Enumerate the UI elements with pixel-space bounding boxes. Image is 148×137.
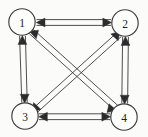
node-2[interactable]: 2 bbox=[112, 10, 138, 36]
node-1-label: 1 bbox=[19, 17, 25, 29]
edge-3-2 bbox=[32, 32, 121, 114]
node-4-label: 4 bbox=[121, 112, 127, 124]
edge-1-3 bbox=[18, 35, 29, 103]
nodes-group: 1 2 3 4 bbox=[9, 9, 138, 130]
node-1[interactable]: 1 bbox=[9, 9, 35, 35]
edge-3-4 bbox=[39, 112, 111, 121]
node-3[interactable]: 3 bbox=[12, 103, 38, 129]
edge-1-2 bbox=[36, 18, 111, 27]
graph-figure: 1 2 3 4 bbox=[0, 0, 148, 137]
node-4[interactable]: 4 bbox=[111, 104, 137, 130]
node-3-label: 3 bbox=[22, 111, 28, 123]
node-2-label: 2 bbox=[122, 18, 128, 30]
edges-group bbox=[18, 18, 130, 121]
graph-canvas: 1 2 3 4 bbox=[0, 0, 148, 137]
edge-2-4 bbox=[120, 36, 130, 104]
